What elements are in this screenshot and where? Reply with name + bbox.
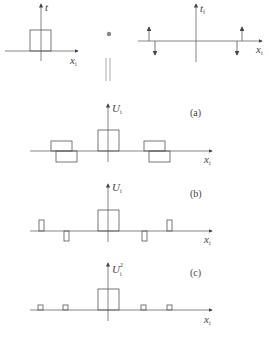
rect-function-plot: t xi [5,1,78,67]
y-axis-label: Ui [112,102,122,115]
panel-caption: (a) [190,107,201,119]
right-negative-pulse [149,151,170,162]
left-positive-spike [39,220,44,231]
panel-b-plot: Ui xi (b) [30,181,212,246]
diagram-canvas: t xi tf xi Ui xi (a) [0,0,269,337]
left-negative-pulse [56,151,77,162]
y-axis-label: tf [200,2,205,15]
x-axis-label: xi [203,233,211,246]
side-pulse [141,305,146,310]
y-axis-label: U2i [112,262,123,277]
side-pulse [167,305,172,310]
impulse-pair-plot: tf xi [138,2,263,62]
panel-caption: (b) [190,188,202,200]
side-pulse [63,305,68,310]
y-axis-label: Ui [112,181,122,194]
y-axis-label: t [45,1,49,13]
left-positive-pulse [51,141,72,151]
x-axis-label: xi [203,153,211,166]
x-axis-label: xi [69,54,77,67]
right-positive-pulse [144,141,165,151]
center-pulse [98,210,119,231]
panel-c-plot: U2i xi (c) [30,262,212,326]
right-positive-spike [167,220,172,231]
center-pulse [98,130,119,151]
left-negative-spike [64,231,69,241]
center-pulse [98,289,119,310]
equals-sign-icon [106,58,110,81]
convolution-operator-icon [107,32,111,36]
x-axis-label: xi [255,43,263,56]
panel-caption: (c) [190,267,201,279]
side-pulse [38,305,43,310]
panel-a-plot: Ui xi (a) [30,102,212,166]
x-axis-label: xi [203,313,211,326]
rect-pulse [30,30,51,51]
right-negative-spike [142,231,147,241]
